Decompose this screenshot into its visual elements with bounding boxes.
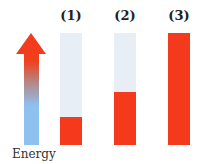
bar-1-label: (1) — [51, 8, 91, 23]
bar-1 — [60, 33, 82, 145]
bar-3 — [168, 33, 190, 145]
energy-label: Energy — [12, 147, 56, 161]
bar-1-fill — [60, 117, 82, 145]
bar-2-label: (2) — [105, 8, 145, 23]
energy-arrow-icon — [15, 33, 47, 145]
bar-2 — [114, 33, 136, 145]
bar-3-fill — [168, 33, 190, 145]
bar-2-fill — [114, 92, 136, 145]
bar-3-label: (3) — [159, 8, 199, 23]
